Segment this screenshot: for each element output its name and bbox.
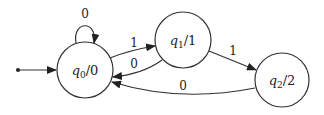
state-label: q0/0 [72, 63, 99, 80]
transition-label: 0 [179, 79, 187, 93]
transition-q2-q0: 0 [112, 79, 255, 94]
transition-label: 1 [130, 36, 138, 50]
diagram-canvas: 0 1 0 1 0 q0/0 q1/1 [0, 0, 324, 115]
transition-q1-q2: 1 [209, 44, 256, 70]
transition-q1-q0: 0 [113, 57, 162, 77]
state-label: q2/2 [269, 73, 296, 90]
transition-label: 0 [130, 57, 138, 71]
transition-q0-q0: 0 [76, 7, 95, 43]
transition-label: 1 [229, 44, 237, 58]
transition-label: 0 [81, 7, 89, 21]
transition-q0-q1: 1 [110, 36, 155, 58]
initial-arrow [16, 68, 56, 72]
state-q2[interactable]: q2/2 [255, 53, 309, 107]
state-q1[interactable]: q1/1 [155, 12, 211, 68]
state-label: q1/1 [170, 33, 197, 50]
self-loop-arrow [76, 26, 95, 43]
state-diagram: 0 1 0 1 0 q0/0 q1/1 [0, 0, 324, 115]
state-q0[interactable]: q0/0 [57, 42, 113, 98]
